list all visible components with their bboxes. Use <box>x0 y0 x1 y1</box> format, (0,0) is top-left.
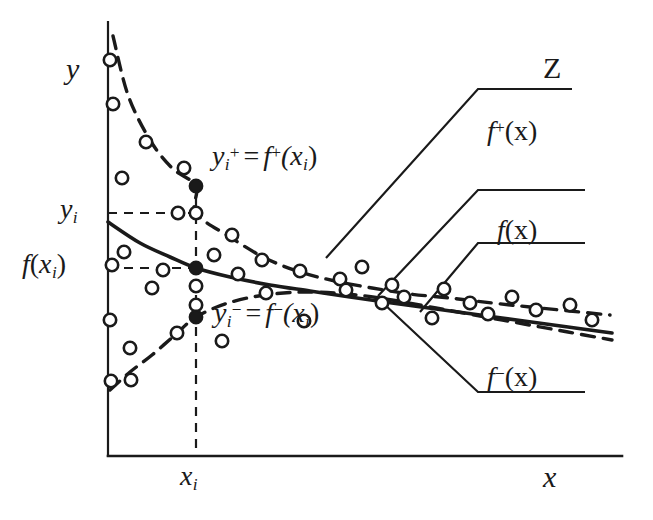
data-point-open <box>386 279 398 291</box>
callout-f-plus-args: (x) <box>505 115 538 146</box>
f-tick-paren-close: ) <box>57 248 66 279</box>
data-point-open <box>140 136 152 148</box>
data-point-open <box>104 54 116 66</box>
data-point-open <box>157 264 169 276</box>
data-point-open <box>356 261 368 273</box>
data-point-open <box>124 342 136 354</box>
x-i-tick-subscript: i <box>193 475 198 494</box>
callout-label-f-minus: f−(x) <box>487 363 537 391</box>
lower-point-equation-label: yi−=f−(xi) <box>214 299 319 330</box>
callout-f-minus-base: f <box>487 361 495 392</box>
data-point-open <box>104 314 116 326</box>
x-axis-label: x <box>543 462 556 492</box>
callout-z-base: Z <box>543 51 561 84</box>
x-i-tick-base: x <box>180 460 192 491</box>
data-point-open <box>398 291 410 303</box>
lower-eq-rhs-base: f <box>265 297 273 328</box>
data-point-open <box>232 268 244 280</box>
callout-f-base: f <box>497 214 505 245</box>
upper-eq-rhs-superscript: + <box>271 143 281 162</box>
lower-eq-lhs-subscript: i <box>227 312 232 331</box>
lower-eq-rhs-args: (x <box>283 297 305 328</box>
upper-eq-lhs-superscript: + <box>230 143 240 162</box>
callout-f-plus-superscript: + <box>495 118 505 137</box>
data-point-filled <box>190 311 203 324</box>
data-point-open <box>464 297 476 309</box>
lower-eq-lhs-base: y <box>214 297 226 328</box>
data-point-open <box>190 299 202 311</box>
callout-f-plus-base: f <box>487 115 495 146</box>
data-point-open <box>376 297 388 309</box>
reference-lines-group <box>108 183 200 455</box>
upper-eq-rhs-args: (x <box>281 140 303 171</box>
data-point-open <box>171 327 183 339</box>
data-point-open <box>294 265 306 277</box>
callout-f-minus-args: (x) <box>505 361 538 392</box>
lower-eq-equals: = <box>245 297 261 328</box>
callout-label-f-plus: f+(x) <box>487 117 537 145</box>
y-i-tick-subscript: i <box>73 208 78 227</box>
f-tick-variable: x <box>39 248 51 279</box>
data-point-open <box>216 335 228 347</box>
callout-f-args: (x) <box>505 214 538 245</box>
figure-canvas: y x xi yi f(xi) yi+=f+(xi) yi−=f−(xi) Z … <box>0 0 653 520</box>
data-point-open <box>256 254 268 266</box>
data-point-open <box>116 172 128 184</box>
data-point-open <box>340 284 352 296</box>
leader-line-fx <box>420 243 585 312</box>
y-axis-label: y <box>66 54 79 84</box>
f-of-x-i-tick-label: f(xi) <box>22 250 66 281</box>
data-point-open <box>208 249 220 261</box>
upper-eq-rhs-base: f <box>263 140 271 171</box>
lower-eq-lhs-superscript: − <box>232 300 242 319</box>
data-point-open <box>438 283 450 295</box>
data-point-open <box>226 229 238 241</box>
upper-point-equation-label: yi+=f+(xi) <box>212 142 317 173</box>
data-point-filled <box>190 180 203 193</box>
data-point-open <box>146 282 158 294</box>
data-point-open <box>586 314 598 326</box>
f-tick-paren-open: ( <box>30 248 39 279</box>
x-i-tick-label: xi <box>180 462 198 493</box>
upper-eq-lhs-subscript: i <box>225 155 230 174</box>
data-point-open <box>178 162 190 174</box>
data-point-filled <box>190 262 203 275</box>
data-point-open <box>105 375 117 387</box>
callout-label-f: f(x) <box>497 216 537 244</box>
upper-eq-lhs-base: y <box>212 140 224 171</box>
f-tick-base: f <box>22 248 30 279</box>
data-point-open <box>172 207 184 219</box>
upper-eq-rhs-close: ) <box>308 140 317 171</box>
data-point-open <box>190 280 202 292</box>
data-point-open <box>107 98 119 110</box>
lower-eq-rhs-superscript: − <box>273 300 283 319</box>
data-point-open <box>118 246 130 258</box>
y-i-tick-base: y <box>60 193 72 224</box>
data-point-open <box>564 299 576 311</box>
data-point-open <box>426 312 438 324</box>
data-point-open <box>125 374 137 386</box>
data-point-open <box>530 304 542 316</box>
data-point-open <box>506 291 518 303</box>
data-point-open <box>106 259 118 271</box>
upper-eq-equals: = <box>243 140 259 171</box>
data-point-open <box>482 308 494 320</box>
callout-label-z: Z <box>543 53 561 83</box>
callout-f-minus-superscript: − <box>495 364 505 383</box>
data-point-open <box>190 207 202 219</box>
lower-eq-rhs-close: ) <box>310 297 319 328</box>
callout-leader-lines-group <box>326 89 585 392</box>
y-i-tick-label: yi <box>60 195 78 226</box>
